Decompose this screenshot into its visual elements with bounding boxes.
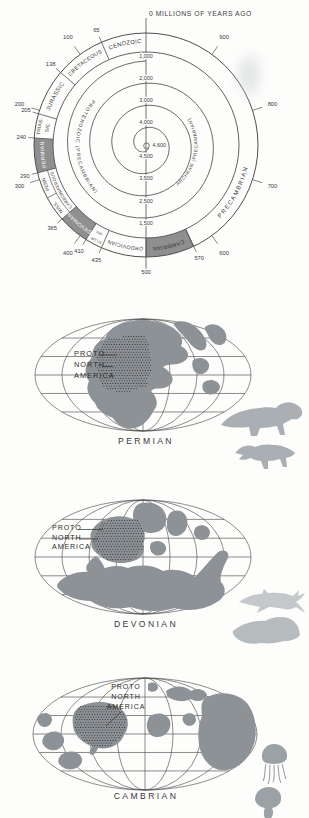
annotation-line: NORTH — [52, 534, 91, 544]
scan-smudge — [238, 55, 260, 95]
spiral-turn-value: 4,500 — [139, 153, 153, 159]
tick-label-365: 365 — [47, 225, 57, 231]
annotation-line: AMERICA — [74, 370, 115, 381]
spiral-center-circle — [144, 143, 150, 149]
gorgonopsian-reptile-silhouette — [235, 444, 295, 469]
tick-label-410: 410 — [74, 248, 84, 254]
figure-graphics: 6510013820020524029030036540041043550057… — [0, 0, 309, 818]
svg-text:CRETACEOUS: CRETACEOUS — [67, 48, 103, 77]
tick-label-800: 800 — [268, 101, 278, 107]
tick-label-290: 290 — [20, 173, 30, 179]
svg-text:SIC: SIC — [44, 123, 50, 133]
spiral-turn-value: 2,000 — [139, 75, 153, 81]
paleo-map-permian — [35, 319, 302, 469]
svg-text:PROTEROZOIC (PRECAMBRIAN): PROTEROZOIC (PRECAMBRIAN) — [75, 99, 100, 195]
annotation-line: AMERICA — [52, 543, 91, 553]
svg-text:PRECAMBRIAN: PRECAMBRIAN — [216, 165, 248, 219]
svg-text:CENOZOIC: CENOZOIC — [108, 38, 142, 51]
svg-text:ORDOVICIAN: ORDOVICIAN — [106, 239, 143, 252]
tick-label-600: 600 — [219, 250, 229, 256]
svg-text:SILUR-: SILUR- — [88, 235, 102, 245]
annotation-line: NORTH — [74, 359, 115, 370]
map-caption-devonian: DEVONIAN — [0, 619, 292, 629]
tick-label-100: 100 — [63, 34, 73, 40]
spiral-turn-value: 4,000 — [139, 119, 153, 125]
annotation-line: NORTH — [98, 693, 154, 703]
textbook-figure-page: 6510013820020524029030036540041043550057… — [0, 0, 309, 818]
spiral-turn-value: 3,000 — [139, 97, 153, 103]
tick-label-900: 900 — [219, 34, 229, 40]
svg-text:PENN.: PENN. — [40, 176, 50, 192]
tick-label-570: 570 — [194, 255, 204, 261]
tick-label-65: 65 — [93, 27, 99, 33]
early-shark-silhouette — [239, 589, 305, 613]
jellyfish-silhouette — [262, 744, 287, 784]
annotation-line: AMERICA — [98, 703, 154, 713]
annotation-line: PROTO — [74, 348, 115, 359]
tick-label-200: 200 — [15, 101, 25, 107]
tick-label-138: 138 — [46, 61, 56, 67]
tick-label-205: 205 — [21, 107, 31, 113]
proto-north-america-label-permian: PROTO NORTH AMERICA — [74, 348, 115, 382]
spiral-turn-value: 1,500 — [139, 220, 153, 226]
time-spiral-curve — [68, 61, 214, 218]
spiral-turn-value: 4,600 — [153, 142, 167, 148]
svg-text:ARCHEAN (PRECAMBRIAN): ARCHEAN (PRECAMBRIAN) — [175, 117, 198, 186]
map-caption-permian: PERMIAN — [0, 436, 292, 446]
geologic-time-spiral: 6510013820020524029030036540041043550057… — [15, 18, 278, 275]
spiral-turn-value: 1,000 — [139, 53, 153, 59]
annotation-line: PROTO — [98, 683, 154, 693]
svg-text:JURASSIC: JURASSIC — [45, 81, 65, 112]
spiral-turn-value: 3,500 — [139, 175, 153, 181]
annotation-line: PROTO — [52, 524, 91, 534]
time-axis-origin-label: 0 MILLIONS OF YEARS AGO — [149, 10, 252, 17]
svg-text:500: 500 — [141, 269, 151, 275]
svg-text:IAN: IAN — [95, 229, 103, 236]
tick-label-240: 240 — [16, 134, 26, 140]
tick-label-400: 400 — [63, 250, 73, 256]
tick-label-300: 300 — [15, 183, 25, 189]
shaded-period-cambrian — [146, 229, 194, 257]
proto-north-america-label-cambrian: PROTO NORTH AMERICA — [98, 683, 154, 712]
tick-label-435: 435 — [92, 257, 102, 263]
tick-label-700: 700 — [268, 183, 278, 189]
spiral-turn-value: 2,500 — [139, 198, 153, 204]
map-caption-cambrian: CAMBRIAN — [0, 791, 292, 801]
dinocephalian-reptile-silhouette — [221, 402, 302, 436]
proto-north-america-label-devonian: PROTO NORTH AMERICA — [52, 524, 91, 553]
